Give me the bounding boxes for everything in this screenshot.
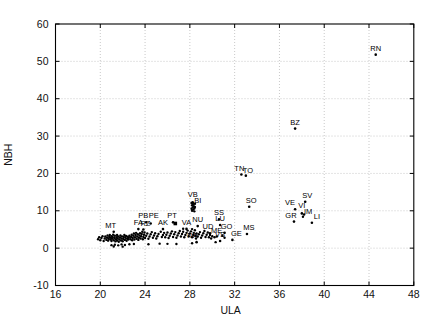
point-label: GE — [231, 229, 242, 238]
data-point — [120, 243, 122, 245]
y-axis-tick-label: -10 — [33, 279, 48, 291]
data-point — [172, 236, 174, 238]
data-point — [169, 235, 171, 237]
data-point — [176, 234, 178, 236]
data-point — [162, 228, 165, 231]
data-point — [182, 231, 184, 233]
data-point — [112, 230, 115, 233]
point-label: MS — [243, 223, 254, 232]
data-point — [177, 232, 179, 234]
y-axis-tick-label: 60 — [37, 18, 49, 30]
data-point — [128, 243, 130, 245]
data-point — [311, 221, 314, 224]
data-point — [148, 235, 150, 237]
point-label: NA — [187, 231, 197, 240]
data-point — [172, 221, 175, 224]
data-point — [246, 233, 249, 236]
data-point — [160, 231, 162, 233]
data-point — [147, 243, 149, 245]
data-point — [175, 243, 177, 245]
data-point — [141, 233, 143, 235]
data-point — [191, 228, 193, 230]
data-point — [198, 233, 200, 235]
data-point — [137, 228, 140, 231]
data-point — [162, 234, 164, 236]
data-point — [131, 239, 133, 241]
data-point — [144, 237, 146, 239]
data-point — [145, 235, 147, 237]
point-label: IM — [304, 207, 312, 216]
data-point — [183, 236, 185, 238]
point-label: SO — [246, 196, 257, 205]
x-axis-tick-label: 36 — [274, 288, 286, 300]
data-point — [158, 242, 160, 244]
x-axis-tick-label: 44 — [363, 288, 375, 300]
data-point — [137, 239, 139, 241]
data-point — [101, 235, 103, 237]
data-point — [301, 212, 304, 215]
x-axis-tick-label: 28 — [184, 288, 196, 300]
y-axis-title: NBH — [2, 144, 14, 166]
data-point — [294, 127, 297, 130]
point-label: BI — [194, 196, 201, 205]
point-label: SV — [302, 191, 312, 200]
point-label: RZ — [140, 219, 150, 228]
data-point — [191, 242, 193, 244]
data-point — [117, 244, 119, 246]
data-point — [204, 236, 206, 238]
data-point — [201, 234, 203, 236]
data-point — [142, 228, 145, 231]
data-point — [302, 216, 304, 218]
data-point — [175, 236, 177, 238]
data-point — [140, 235, 142, 237]
data-point — [165, 233, 167, 235]
y-axis-tick-label: 40 — [37, 92, 49, 104]
data-point — [110, 244, 112, 246]
point-label: GR — [285, 211, 297, 220]
data-point — [121, 240, 123, 242]
data-point — [152, 236, 154, 238]
data-point — [248, 205, 251, 208]
scatter-plot-figure: 162024283236404448-100102030405060ULANBH… — [0, 0, 438, 334]
point-label: BZ — [290, 118, 300, 127]
data-point — [102, 240, 104, 242]
data-point — [374, 53, 377, 56]
data-point — [174, 231, 176, 233]
data-point — [121, 245, 123, 247]
y-axis-tick-label: 20 — [37, 167, 49, 179]
data-point — [208, 236, 210, 238]
point-label: RN — [370, 44, 381, 53]
data-point — [191, 210, 193, 212]
data-point — [207, 231, 209, 233]
data-point — [214, 241, 216, 243]
x-axis-tick-label: 20 — [94, 288, 106, 300]
data-point — [193, 210, 195, 212]
point-label: VA — [182, 218, 191, 227]
point-label: PT — [167, 211, 177, 220]
data-point — [151, 231, 153, 233]
data-point — [139, 237, 141, 239]
y-axis-tick-label: 10 — [37, 204, 49, 216]
data-point — [170, 232, 172, 234]
data-point — [167, 237, 169, 239]
point-label: VE — [285, 198, 295, 207]
data-point — [182, 228, 184, 230]
data-point — [194, 206, 196, 208]
data-point — [143, 233, 145, 235]
data-point — [118, 241, 120, 243]
data-point — [293, 220, 296, 223]
data-point — [180, 235, 182, 237]
data-point — [149, 233, 151, 235]
data-point — [211, 235, 213, 237]
x-axis-tick-label: 48 — [408, 288, 420, 300]
data-point — [143, 231, 145, 233]
point-label: AK — [158, 218, 168, 227]
data-point — [202, 232, 204, 234]
data-point — [185, 228, 188, 231]
data-point — [153, 234, 155, 236]
data-point — [124, 244, 126, 246]
data-point — [110, 240, 112, 242]
data-point — [195, 241, 198, 244]
data-point — [205, 233, 207, 235]
point-label: MT — [105, 221, 116, 230]
